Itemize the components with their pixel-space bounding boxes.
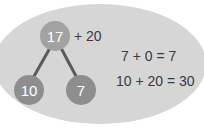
part-value-right: 7 [77,82,85,99]
part-circle-left: 10 [14,75,44,105]
whole-circle: 17 [40,21,70,51]
bond-connectors [0,0,204,128]
whole-value: 17 [47,28,64,45]
equation-ones: 7 + 0 = 7 [121,48,176,64]
part-circle-right: 7 [66,75,96,105]
part-value-left: 10 [21,82,38,99]
addend-label: + 20 [74,28,102,44]
equation-tens: 10 + 20 = 30 [116,73,195,89]
